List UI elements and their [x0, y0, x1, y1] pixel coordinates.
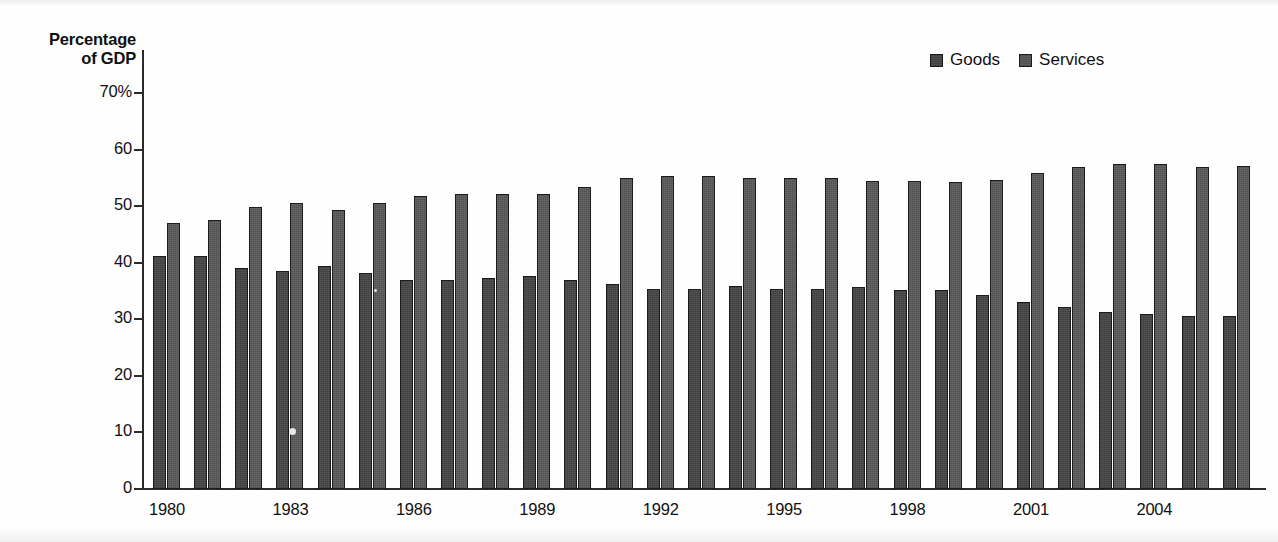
x-tick-slot: 1995	[770, 496, 811, 526]
x-tick-slot	[1058, 496, 1099, 526]
bar-group	[1140, 93, 1181, 489]
bar-services-1986	[414, 196, 427, 489]
chart-figure: Percentage of GDP Goods Services 0102030…	[0, 0, 1278, 542]
bar-services-1989	[537, 194, 550, 489]
y-tick-label: 20	[72, 365, 132, 384]
bar-goods-1988	[482, 278, 495, 489]
bar-goods-2001	[1017, 302, 1030, 489]
legend-label-goods: Goods	[950, 50, 1000, 70]
x-tick-slot	[1182, 496, 1223, 526]
x-tick-slot: 1992	[647, 496, 688, 526]
bar-goods-1994	[729, 286, 742, 489]
bar-services-1987	[455, 194, 468, 489]
bar-group	[647, 93, 688, 489]
x-tick-slot	[318, 496, 359, 526]
y-tick-label: 30	[72, 308, 132, 327]
bar-group	[318, 93, 359, 489]
bar-goods-1999	[935, 290, 948, 489]
bar-services-1983	[290, 203, 303, 489]
x-tick-slot	[441, 496, 482, 526]
x-tick-slot	[606, 496, 647, 526]
y-tick-label: 50	[72, 195, 132, 214]
bar-group	[400, 93, 441, 489]
x-tick-label: 2001	[1013, 500, 1049, 519]
bar-goods-2006	[1223, 316, 1236, 489]
bar-services-1993	[702, 176, 715, 489]
bar-group	[1223, 93, 1264, 489]
bar-goods-1997	[852, 287, 865, 489]
bar-goods-1987	[441, 280, 454, 489]
x-tick-slot	[811, 496, 852, 526]
bar-goods-1995	[770, 289, 783, 489]
bar-goods-2004	[1140, 314, 1153, 489]
x-tick-slot: 2001	[1017, 496, 1058, 526]
x-tick-label: 1995	[766, 500, 802, 519]
bar-goods-2003	[1099, 312, 1112, 489]
bar-group	[688, 93, 729, 489]
bar-services-1994	[743, 178, 756, 489]
bar-group	[811, 93, 852, 489]
x-tick-label: 1986	[396, 500, 432, 519]
legend-item-goods: Goods	[930, 50, 1000, 70]
bar-group	[935, 93, 976, 489]
y-axis-title-line1: Percentage	[18, 30, 136, 49]
bar-group	[606, 93, 647, 489]
y-axis-tick-labels: 010203040506070%	[66, 93, 132, 489]
bar-group	[894, 93, 935, 489]
bar-services-1998	[908, 181, 921, 489]
bar-services-2001	[1031, 173, 1044, 489]
scan-speck	[374, 289, 377, 292]
x-tick-label: 1983	[272, 500, 308, 519]
bar-group	[1099, 93, 1140, 489]
bar-services-2000	[990, 180, 1003, 489]
x-axis-tick-labels: 198019831986198919921995199820012004	[142, 496, 1264, 526]
x-tick-label: 1992	[643, 500, 679, 519]
bar-services-2003	[1113, 164, 1126, 489]
bar-group	[276, 93, 317, 489]
scan-artifact-bottom	[0, 528, 1278, 542]
bar-services-2002	[1072, 167, 1085, 489]
bar-goods-1990	[564, 280, 577, 489]
chart-legend: Goods Services	[930, 50, 1104, 70]
x-tick-slot	[194, 496, 235, 526]
x-tick-slot: 1983	[276, 496, 317, 526]
bar-goods-1980	[153, 256, 166, 489]
bar-goods-2000	[976, 295, 989, 489]
bar-group	[523, 93, 564, 489]
bar-group	[770, 93, 811, 489]
scan-speck	[289, 428, 296, 435]
x-tick-slot	[359, 496, 400, 526]
y-tick-label: 70%	[72, 82, 132, 101]
y-tick-label: 0	[72, 478, 132, 497]
bar-goods-2005	[1182, 316, 1195, 489]
x-tick-slot	[729, 496, 770, 526]
bar-group	[1058, 93, 1099, 489]
y-tick-label: 10	[72, 421, 132, 440]
bar-goods-1981	[194, 256, 207, 489]
bar-services-1982	[249, 207, 262, 489]
y-tick-label: 60	[72, 139, 132, 158]
bar-services-1981	[208, 220, 221, 489]
bar-services-1980	[167, 223, 180, 489]
x-tick-slot	[235, 496, 276, 526]
bar-goods-1982	[235, 268, 248, 489]
bar-services-1984	[332, 210, 345, 489]
bar-goods-1991	[606, 284, 619, 489]
x-tick-slot	[688, 496, 729, 526]
bar-services-2006	[1237, 166, 1250, 489]
x-tick-slot: 2004	[1140, 496, 1181, 526]
x-tick-slot	[976, 496, 1017, 526]
x-tick-label: 1989	[519, 500, 555, 519]
bar-group	[482, 93, 523, 489]
bar-group	[1017, 93, 1058, 489]
x-tick-slot	[482, 496, 523, 526]
x-tick-label: 1998	[890, 500, 926, 519]
bar-group	[852, 93, 893, 489]
x-tick-slot: 1998	[894, 496, 935, 526]
x-tick-slot	[852, 496, 893, 526]
bar-goods-2002	[1058, 307, 1071, 489]
bar-services-1995	[784, 178, 797, 489]
bar-services-1999	[949, 182, 962, 489]
legend-swatch-goods-icon	[930, 54, 943, 67]
bar-goods-1986	[400, 280, 413, 489]
